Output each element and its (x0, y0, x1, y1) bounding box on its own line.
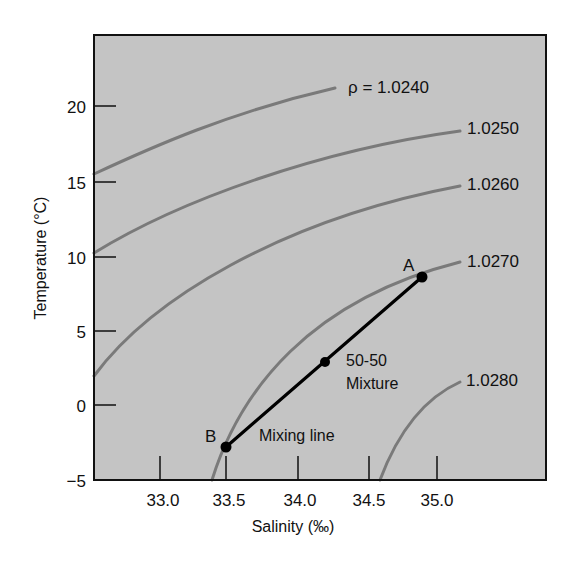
x-tick-label: 34.5 (352, 491, 385, 510)
point-b-marker (221, 442, 232, 453)
ts-diagram: −5 0 5 10 15 20 33.0 33.5 34.0 34.5 35.0… (0, 0, 572, 568)
point-b-label: B (205, 427, 216, 446)
x-tick-label: 34.0 (283, 491, 316, 510)
x-tick-label: 35.0 (420, 491, 453, 510)
point-mixture-marker (320, 357, 330, 367)
x-tick-label: 33.0 (146, 491, 179, 510)
x-tick-labels: 33.0 33.5 34.0 34.5 35.0 (146, 491, 453, 510)
curve-label-1-0240: ρ = 1.0240 (348, 78, 429, 97)
curve-label-1-0280: 1.0280 (466, 371, 518, 390)
y-tick-label: 5 (77, 323, 86, 342)
y-axis-title: Temperature (°C) (32, 197, 49, 320)
curve-label-1-0260: 1.0260 (467, 175, 519, 194)
point-a-label: A (403, 256, 415, 275)
y-tick-label: 20 (67, 98, 86, 117)
mixing-line-label: Mixing line (259, 427, 335, 444)
x-axis-title: Salinity (‰) (252, 518, 335, 535)
mixture-label-line2: Mixture (346, 375, 399, 392)
curve-label-1-0270: 1.0270 (467, 252, 519, 271)
y-tick-label: 15 (67, 174, 86, 193)
mixture-label-line1: 50-50 (346, 352, 387, 369)
y-tick-label: 10 (67, 249, 86, 268)
point-a-marker (417, 272, 428, 283)
y-tick-labels: −5 0 5 10 15 20 (67, 98, 86, 491)
y-tick-label: −5 (67, 472, 86, 491)
y-tick-label: 0 (77, 397, 86, 416)
curve-label-1-0250: 1.0250 (467, 119, 519, 138)
x-tick-label: 33.5 (212, 491, 245, 510)
